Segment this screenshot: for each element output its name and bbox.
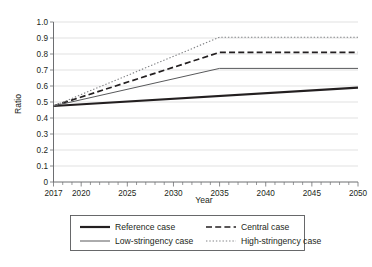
y-tick-label: 0.3 (37, 130, 49, 139)
series-line-central-case (54, 52, 359, 106)
y-axis-tick-labels: 00.10.20.30.40.50.60.70.80.91.0 (37, 18, 49, 187)
y-axis-ticks (50, 22, 54, 182)
y-tick-label: 1.0 (37, 18, 49, 27)
chart-legend: Reference caseCentral caseLow-stringency… (71, 216, 322, 251)
y-tick-label: 0.6 (37, 82, 49, 91)
x-tick-label: 2040 (257, 189, 276, 198)
y-tick-label: 0.7 (37, 66, 49, 75)
series-line-low-stringency-case (54, 68, 359, 106)
x-tick-label: 2030 (164, 189, 183, 198)
x-axis-title: Year (195, 195, 213, 205)
y-tick-label: 0.2 (37, 146, 49, 155)
x-tick-label: 2050 (349, 189, 368, 198)
series-line-reference-case (54, 88, 359, 106)
y-tick-label: 0.9 (37, 34, 49, 43)
legend-label: Low-stringency case (115, 236, 194, 246)
y-tick-label: 0.8 (37, 50, 49, 59)
gridlines (54, 22, 359, 166)
y-axis-title: Ratio (13, 94, 23, 114)
x-axis-ticks (54, 182, 359, 187)
legend-label: High-stringency case (241, 236, 321, 246)
y-tick-label: 0.1 (37, 162, 49, 171)
y-tick-label: 0.5 (37, 98, 49, 107)
series-lines (54, 37, 359, 106)
x-tick-label: 2035 (210, 189, 229, 198)
x-tick-label: 2020 (72, 189, 91, 198)
legend-label: Reference case (115, 222, 175, 232)
y-tick-label: 0.4 (37, 114, 49, 123)
legend-label: Central case (241, 222, 289, 232)
chart-figure: 00.10.20.30.40.50.60.70.80.91.0 20172020… (0, 0, 372, 267)
y-tick-label: 0 (43, 178, 48, 187)
line-chart: 00.10.20.30.40.50.60.70.80.91.0 20172020… (0, 0, 372, 267)
x-tick-label: 2025 (118, 189, 137, 198)
x-tick-label: 2045 (303, 189, 322, 198)
x-tick-label: 2017 (44, 189, 63, 198)
